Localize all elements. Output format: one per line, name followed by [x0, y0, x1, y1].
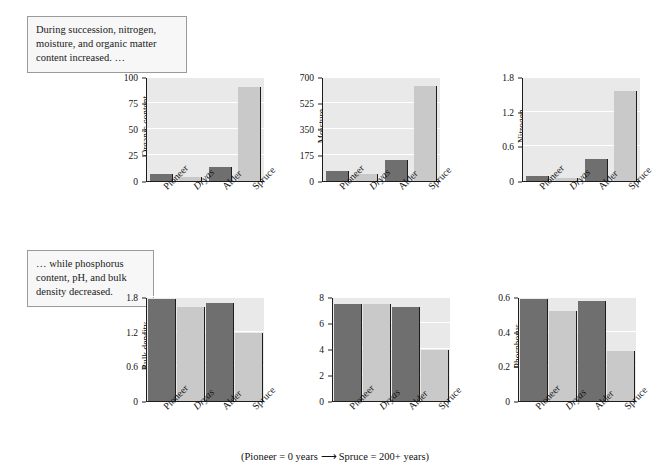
- bar-slot: [392, 298, 421, 401]
- bar-slot: [578, 298, 607, 401]
- chart-bulk-density: Bulk density(g/cm³)00.61.21.8PioneerDrya…: [100, 294, 270, 446]
- y-axis-tick-label: 0: [309, 177, 318, 187]
- y-axis-tick-label: 50: [129, 125, 143, 135]
- y-axis-tick-mark: [518, 78, 522, 79]
- bar-alder: [392, 307, 420, 401]
- arrow-icon: ⟶: [318, 451, 339, 462]
- y-axis-tick-label: 4: [319, 345, 328, 355]
- plot-background: [522, 78, 640, 182]
- bar-alder: [578, 301, 606, 401]
- y-axis-tick-mark: [142, 367, 146, 368]
- bar-slot: [323, 78, 352, 181]
- y-axis-tick-label: 75: [129, 99, 143, 109]
- bar-slot: [147, 298, 176, 401]
- x-axis-labels: PioneerDryasAlderSpruce: [146, 184, 264, 228]
- y-axis-tick-label: 25: [129, 151, 143, 161]
- bar-slot: [607, 298, 636, 401]
- bar-pioneer: [334, 304, 362, 402]
- y-axis-tick-label: 0.6: [498, 293, 514, 303]
- y-axis-tick-label: 0: [509, 177, 518, 187]
- y-axis-tick-label: 8: [319, 293, 328, 303]
- y-axis-tick-mark: [142, 104, 146, 105]
- plot-area: 0175350525700: [322, 78, 440, 182]
- y-axis-tick-mark: [142, 402, 146, 403]
- bar-slot: [235, 78, 264, 181]
- y-axis-tick-mark: [328, 376, 332, 377]
- y-axis-tick-mark: [328, 298, 332, 299]
- y-axis-tick-mark: [514, 298, 518, 299]
- bar-spruce: [238, 87, 261, 181]
- bar-slot: [421, 298, 450, 401]
- y-axis-tick-label: 6: [319, 319, 328, 329]
- y-axis-tick-mark: [318, 156, 322, 157]
- bar-group: [323, 78, 440, 181]
- y-axis-tick-mark: [518, 182, 522, 183]
- bar-pioneer: [148, 299, 176, 401]
- bar-slot: [382, 78, 411, 181]
- y-axis-tick-mark: [318, 104, 322, 105]
- y-axis-ticks: 00.20.40.6: [478, 298, 514, 402]
- y-axis-tick-label: 350: [300, 125, 318, 135]
- y-axis-tick-mark: [142, 78, 146, 79]
- bar-slot: [519, 298, 548, 401]
- y-axis-tick-label: 0: [319, 397, 328, 407]
- y-axis-tick-mark: [514, 367, 518, 368]
- y-axis-ticks: 0175350525700: [282, 78, 318, 182]
- x-axis-labels: PioneerDryasAlderSpruce: [146, 404, 264, 448]
- bar-slot: [206, 78, 235, 181]
- plot-area: 00.61.21.8: [522, 78, 640, 182]
- chart-ph: pH02468PioneerDryasAlderSpruce: [286, 294, 456, 446]
- y-axis-tick-mark: [318, 78, 322, 79]
- plot-area: 0255075100: [146, 78, 264, 182]
- y-axis-tick-label: 100: [124, 73, 142, 83]
- plot-area: 02468: [332, 298, 450, 402]
- y-axis-tick-mark: [518, 112, 522, 113]
- chart-organic-content: Organic content(mg/g)0255075100PioneerDr…: [100, 74, 270, 226]
- bar-spruce: [614, 91, 637, 181]
- figure-caption: (Pioneer = 0 years⟶Spruce = 200+ years): [0, 450, 670, 462]
- chart-phosphorus: Phosphorus(mg/g)00.20.40.6PioneerDryasAl…: [472, 294, 642, 446]
- y-axis-tick-mark: [328, 324, 332, 325]
- gridline: [323, 76, 440, 77]
- y-axis-tick-label: 0.2: [498, 362, 514, 372]
- x-axis-labels: PioneerDryasAlderSpruce: [518, 404, 636, 448]
- plot-background: [332, 298, 450, 402]
- y-axis-tick-label: 175: [300, 151, 318, 161]
- y-axis-tick-label: 0: [133, 397, 142, 407]
- plot-background: [518, 298, 636, 402]
- y-axis-tick-mark: [142, 156, 146, 157]
- y-axis-ticks: 0255075100: [106, 78, 142, 182]
- gridline: [333, 296, 450, 297]
- plot-area: 00.61.21.8: [146, 298, 264, 402]
- caption-left: (Pioneer = 0 years: [241, 451, 318, 462]
- y-axis-ticks: 00.61.21.8: [482, 78, 518, 182]
- y-axis-tick-mark: [514, 332, 518, 333]
- bar-slot: [206, 298, 235, 401]
- bar-group: [333, 298, 450, 401]
- bar-group: [147, 298, 264, 401]
- bar-pioneer: [520, 299, 548, 401]
- annotation-note-top: During succession, nitrogen, moisture, a…: [27, 16, 187, 73]
- y-axis-tick-label: 2: [319, 371, 328, 381]
- y-axis-tick-label: 0.4: [498, 328, 514, 338]
- y-axis-tick-label: 1.2: [126, 328, 142, 338]
- plot-area: 00.20.40.6: [518, 298, 636, 402]
- y-axis-ticks: 02468: [292, 298, 328, 402]
- bar-slot: [333, 298, 362, 401]
- plot-background: [322, 78, 440, 182]
- bar-spruce: [414, 86, 437, 181]
- y-axis-tick-mark: [142, 332, 146, 333]
- bar-slot: [611, 78, 640, 181]
- y-axis-tick-label: 1.8: [502, 73, 518, 83]
- bar-group: [519, 298, 636, 401]
- y-axis-tick-mark: [514, 402, 518, 403]
- y-axis-tick-mark: [328, 402, 332, 403]
- y-axis-tick-label: 700: [300, 73, 318, 83]
- y-axis-tick-mark: [318, 182, 322, 183]
- bar-alder: [206, 303, 234, 401]
- y-axis-tick-mark: [142, 130, 146, 131]
- bar-slot: [235, 298, 264, 401]
- gridline: [519, 296, 636, 297]
- y-axis-tick-label: 1.8: [126, 293, 142, 303]
- x-axis-labels: PioneerDryasAlderSpruce: [522, 184, 640, 228]
